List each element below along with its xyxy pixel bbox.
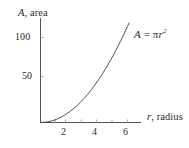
y-tick-marks — [41, 38, 45, 77]
y-tick-label-50: 50 — [22, 71, 32, 81]
y-axis-title-text: , area — [25, 7, 48, 18]
equation-lhs: A — [134, 28, 141, 40]
y-tick-label-100: 100 — [15, 32, 30, 42]
x-tick-label-2: 2 — [61, 127, 66, 137]
x-axis-title: r, radius — [147, 112, 183, 123]
y-axis-title: A, area — [18, 8, 48, 19]
x-tick-label-6: 6 — [123, 127, 128, 137]
x-tick-label-4: 4 — [92, 127, 97, 137]
x-axis-title-text: , radius — [151, 111, 183, 122]
equation-equals: = — [141, 28, 153, 40]
equation-exponent: 2 — [163, 27, 167, 35]
area-vs-radius-figure: A, area r, radius A = πr2 100 50 2 4 6 — [0, 0, 189, 148]
area-curve — [41, 23, 129, 122]
equation-annotation: A = πr2 — [134, 28, 167, 40]
